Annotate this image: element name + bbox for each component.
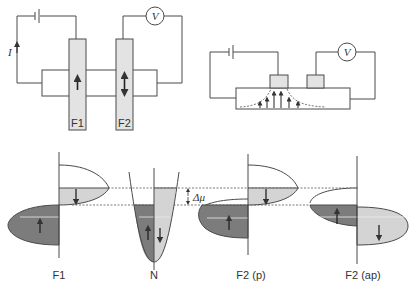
wire xyxy=(157,16,182,83)
detector-contact xyxy=(307,75,324,88)
electrode-label-f1: F1 xyxy=(71,117,84,129)
panel-label-f1: F1 xyxy=(53,269,66,281)
dos-panel-n xyxy=(129,168,179,270)
nonmagnetic-channel xyxy=(42,70,157,96)
nonmagnetic-channel xyxy=(236,88,350,109)
wire xyxy=(123,16,146,39)
wire xyxy=(350,52,375,99)
wire xyxy=(233,52,278,75)
wire xyxy=(17,16,42,83)
wire xyxy=(40,16,76,39)
panel-label-f2-ap: F2 (ap) xyxy=(345,269,380,281)
spin-valve-diagram: I V F1 F2 V xyxy=(0,0,417,292)
panel-label-n: N xyxy=(150,269,158,281)
dos-panel-f2-p xyxy=(199,154,298,255)
wire xyxy=(210,52,236,98)
wire xyxy=(316,52,338,75)
delta-mu-label: Δμ xyxy=(192,191,205,203)
injector-contact xyxy=(270,75,288,88)
left-circuit xyxy=(17,7,182,130)
electrode-label-f2: F2 xyxy=(118,117,131,129)
current-label: I xyxy=(7,46,13,58)
panel-label-f2-p: F2 (p) xyxy=(236,269,265,281)
dos-panel-f2-ap xyxy=(310,156,408,264)
